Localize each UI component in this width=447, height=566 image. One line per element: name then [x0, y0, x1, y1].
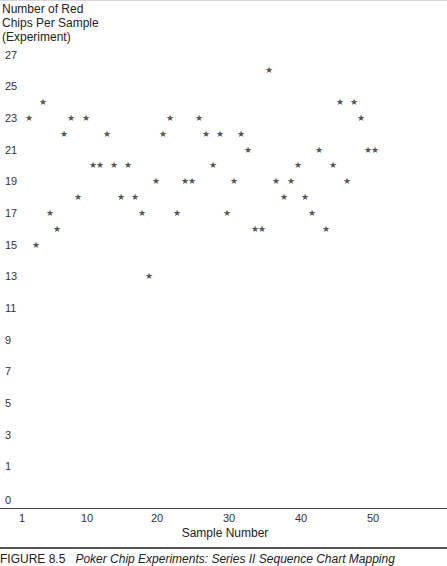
- data-point-star-icon: ★: [265, 66, 273, 75]
- data-point-star-icon: ★: [216, 129, 224, 138]
- data-point-star-icon: ★: [145, 272, 153, 281]
- data-point-star-icon: ★: [195, 113, 203, 122]
- x-tick-label: 20: [151, 512, 163, 524]
- data-point-star-icon: ★: [258, 224, 266, 233]
- data-point-star-icon: ★: [25, 113, 33, 122]
- caption-title: Poker Chip Experiments: Series II Sequen…: [75, 552, 395, 566]
- data-point-star-icon: ★: [110, 161, 118, 170]
- data-point-star-icon: ★: [371, 145, 379, 154]
- x-tick-label: 10: [81, 512, 93, 524]
- data-point-star-icon: ★: [67, 113, 75, 122]
- data-point-star-icon: ★: [173, 208, 181, 217]
- x-axis-title: Sample Number: [182, 526, 269, 540]
- data-point-star-icon: ★: [60, 129, 68, 138]
- figure-caption: FIGURE 8.5 Poker Chip Experiments: Serie…: [0, 552, 395, 566]
- data-point-star-icon: ★: [336, 98, 344, 107]
- data-point-star-icon: ★: [39, 98, 47, 107]
- data-point-star-icon: ★: [117, 193, 125, 202]
- data-point-star-icon: ★: [244, 145, 252, 154]
- data-point-star-icon: ★: [74, 193, 82, 202]
- data-point-star-icon: ★: [301, 193, 309, 202]
- data-point-star-icon: ★: [223, 208, 231, 217]
- x-tick-label: 30: [223, 512, 235, 524]
- data-point-star-icon: ★: [322, 224, 330, 233]
- data-point-star-icon: ★: [124, 161, 132, 170]
- x-tick-label: 50: [367, 512, 379, 524]
- data-point-star-icon: ★: [287, 177, 295, 186]
- data-point-star-icon: ★: [166, 113, 174, 122]
- caption-figure-number: FIGURE 8.5: [0, 552, 65, 566]
- data-point-star-icon: ★: [357, 113, 365, 122]
- data-point-star-icon: ★: [53, 224, 61, 233]
- data-point-star-icon: ★: [350, 98, 358, 107]
- data-point-star-icon: ★: [159, 129, 167, 138]
- data-point-star-icon: ★: [82, 113, 90, 122]
- data-point-star-icon: ★: [131, 193, 139, 202]
- x-tick-label: 40: [295, 512, 307, 524]
- data-point-star-icon: ★: [103, 129, 111, 138]
- data-point-star-icon: ★: [308, 208, 316, 217]
- data-point-star-icon: ★: [96, 161, 104, 170]
- data-point-star-icon: ★: [343, 177, 351, 186]
- data-point-star-icon: ★: [230, 177, 238, 186]
- x-tick-label: 1: [19, 512, 25, 524]
- x-axis-line: [0, 508, 447, 509]
- data-point-star-icon: ★: [329, 161, 337, 170]
- data-point-star-icon: ★: [32, 240, 40, 249]
- data-point-star-icon: ★: [152, 177, 160, 186]
- data-point-star-icon: ★: [280, 193, 288, 202]
- data-point-star-icon: ★: [272, 177, 280, 186]
- data-point-star-icon: ★: [237, 129, 245, 138]
- data-point-star-icon: ★: [294, 161, 302, 170]
- data-point-star-icon: ★: [138, 208, 146, 217]
- data-point-star-icon: ★: [315, 145, 323, 154]
- data-point-star-icon: ★: [46, 208, 54, 217]
- data-point-star-icon: ★: [188, 177, 196, 186]
- data-point-star-icon: ★: [202, 129, 210, 138]
- data-point-star-icon: ★: [209, 161, 217, 170]
- caption-rule: [0, 547, 447, 549]
